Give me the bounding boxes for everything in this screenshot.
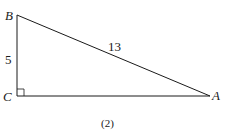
right-angle-marker	[17, 89, 24, 96]
side-label-bc: 5	[5, 52, 12, 67]
side-ab-hypotenuse	[17, 15, 210, 96]
triangle	[17, 15, 210, 96]
vertex-label-b: B	[5, 8, 13, 23]
vertex-label-c: C	[3, 89, 12, 104]
triangle-diagram: B C A 5 13 (2)	[0, 0, 228, 135]
vertex-label-a: A	[211, 88, 220, 103]
figure-caption: (2)	[101, 117, 114, 130]
side-label-ab: 13	[108, 39, 121, 54]
